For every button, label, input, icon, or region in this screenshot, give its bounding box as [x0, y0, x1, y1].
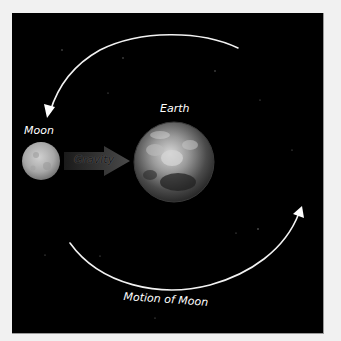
orbit-arrow-top: [44, 35, 238, 118]
diagram-frame: Earth Moon Gravity Motion of Moon: [0, 0, 341, 341]
earth-sphere: [134, 122, 214, 202]
orbit-arrow-bottom: [70, 206, 304, 290]
moon-sphere: [22, 142, 60, 180]
moon-label: Moon: [24, 124, 54, 137]
earth-label: Earth: [160, 102, 190, 115]
gravity-label: Gravity: [74, 153, 114, 166]
diagram-canvas: [0, 0, 341, 341]
